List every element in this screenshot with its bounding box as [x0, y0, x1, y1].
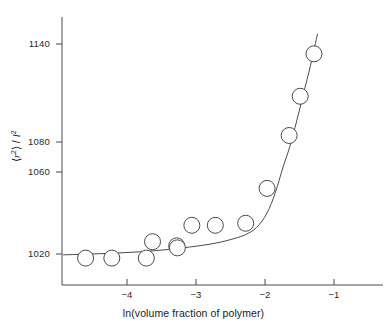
- data-point-2: [138, 250, 154, 266]
- data-point-9: [259, 180, 275, 196]
- y-title-exp-l: 2: [10, 130, 17, 134]
- data-point-0: [78, 250, 94, 266]
- y-tick-label-1140: 1140: [10, 38, 50, 49]
- y-title-exp-r: 2: [10, 150, 17, 154]
- data-point-12: [306, 46, 322, 62]
- y-title-symbol-l: l: [11, 134, 22, 137]
- data-point-8: [238, 215, 254, 231]
- data-point-11: [292, 88, 308, 104]
- axes: [56, 17, 383, 285]
- data-point-10: [281, 127, 297, 143]
- data-point-1: [104, 250, 120, 266]
- y-title-bracket-open: ⟨: [11, 158, 22, 162]
- y-title-symbol-r: r: [11, 154, 22, 158]
- data-point-markers: [78, 46, 322, 266]
- figure: 1020106010801140 −4−3−2−1 ln(volume frac…: [0, 0, 387, 331]
- data-point-5: [169, 240, 185, 256]
- x-tick-label-3: −1: [319, 289, 349, 300]
- x-tick-label-0: −4: [112, 289, 142, 300]
- x-axis-ticks: [127, 279, 334, 285]
- x-axis-title: ln(volume fraction of polymer): [0, 307, 387, 319]
- x-tick-label-2: −2: [250, 289, 280, 300]
- y-tick-label-1020: 1020: [10, 248, 50, 259]
- y-title-bracket-close: ⟩: [11, 146, 22, 150]
- y-title-slash: /: [10, 137, 22, 146]
- data-point-6: [184, 217, 200, 233]
- y-axis-ticks: [56, 44, 62, 254]
- data-point-3: [145, 234, 161, 250]
- x-tick-label-1: −3: [181, 289, 211, 300]
- chart-canvas: [0, 0, 387, 331]
- data-point-7: [207, 217, 223, 233]
- y-axis-title: ⟨r2⟩ / l2: [10, 86, 23, 206]
